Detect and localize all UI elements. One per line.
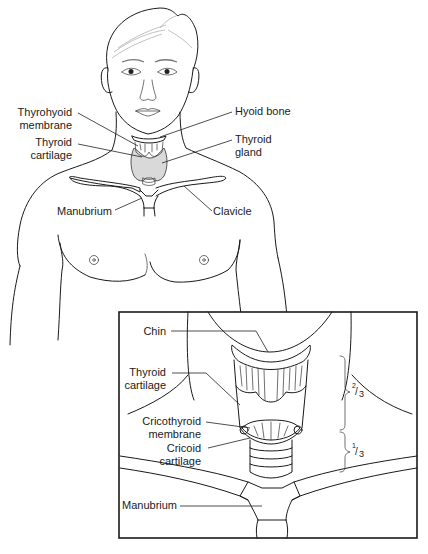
label-inset-thyroid-cartilage: Thyroid [129,366,166,378]
larynx-thyroid-main [131,136,167,186]
fraction-upper-denominator: 3 [359,389,364,399]
label-cricoid-cartilage: Cricoid [167,442,201,454]
label-manubrium: Manubrium [57,205,112,217]
label-cricothyroid-membrane-2: membrane [148,428,201,440]
fraction-lower-slash: / [355,446,358,457]
fraction-upper-slash: / [355,386,358,397]
label-chin: Chin [143,325,166,337]
label-cricothyroid-membrane: Cricothyroid [142,415,201,427]
label-hyoid-bone: Hyoid bone [235,105,291,117]
main-figure: Thyrohyoid membrane Thyroid cartilage Hy… [10,8,291,345]
label-thyroid-cartilage: Thyroid [35,136,72,148]
label-thyroid-gland-2: gland [235,146,262,158]
manubrium-main [140,190,158,216]
label-cricoid-cartilage-2: cartilage [159,455,201,467]
fraction-lower-denominator: 3 [359,449,364,459]
inset-panel: 2 / 3 1 / 3 Chin Thyroid cartilage Crico… [119,312,417,538]
anatomy-diagram: Thyrohyoid membrane Thyroid cartilage Hy… [0,0,428,554]
label-thyrohyoid-membrane: Thyrohyoid [18,106,72,118]
label-inset-thyroid-cartilage-2: cartilage [124,379,166,391]
label-inset-manubrium: Manubrium [122,499,177,511]
label-thyroid-gland: Thyroid [235,133,272,145]
label-clavicle: Clavicle [213,205,252,217]
label-thyrohyoid-membrane-2: membrane [19,119,72,131]
label-thyroid-cartilage-2: cartilage [30,149,72,161]
